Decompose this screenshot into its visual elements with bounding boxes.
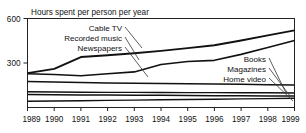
x-tick-label: 1998	[259, 115, 278, 124]
annotation-label-magazines: Magazines	[227, 65, 266, 74]
y-axis-ticks: 300600	[7, 15, 28, 69]
y-tick-label: 300	[7, 59, 21, 68]
leader-line-cable-tv	[125, 27, 142, 48]
x-tick-label: 1993	[125, 115, 144, 124]
x-tick-label: 1996	[205, 115, 224, 124]
x-axis-ticks	[28, 108, 295, 112]
x-tick-label: 1990	[45, 115, 64, 124]
x-tick-label: 1997	[232, 115, 251, 124]
chart-title: Hours spent per person per year	[31, 8, 149, 17]
annotation-label-recorded-music: Recorded music	[64, 34, 122, 43]
right-annotations: BooksMagazinesHome video	[223, 55, 266, 84]
annotation-label-newspapers: Newspapers	[78, 44, 122, 53]
series-line-magazines	[28, 94, 295, 96]
annotation-label-home-video: Home video	[223, 75, 266, 84]
series-line-home-video	[28, 98, 295, 101]
x-tick-label: 1999	[281, 115, 300, 124]
annotation-label-books: Books	[244, 55, 266, 64]
x-tick-label: 1989	[22, 115, 41, 124]
chart-container: Hours spent per person per year 300600 1…	[0, 0, 306, 133]
y-tick-label: 600	[7, 15, 21, 24]
x-tick-label: 1994	[152, 115, 171, 124]
annotation-leader-lines	[125, 27, 293, 101]
leader-line-magazines	[269, 68, 290, 96]
left-annotations: Cable TVRecorded musicNewspapers	[64, 24, 122, 53]
x-tick-label: 1991	[72, 115, 91, 124]
annotation-label-cable-tv: Cable TV	[89, 24, 123, 33]
x-tick-label: 1992	[98, 115, 117, 124]
x-axis-tick-labels: 1989199019911992199319941995199619971998…	[22, 115, 300, 124]
x-tick-label: 1995	[179, 115, 198, 124]
leader-line-home-video	[269, 78, 293, 101]
series-line-books	[28, 92, 295, 93]
line-chart: Hours spent per person per year 300600 1…	[0, 0, 306, 133]
